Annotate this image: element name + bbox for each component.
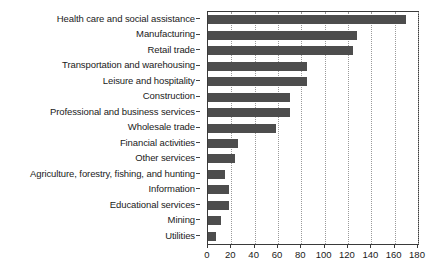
- category-tick-mark: [196, 173, 200, 174]
- category-tick-mark: [196, 49, 200, 50]
- value-tick-label: 100: [316, 249, 332, 260]
- category-label: Wholesale trade: [128, 122, 195, 132]
- category-label: Financial activities: [120, 138, 195, 148]
- category-label: Health care and social assistance: [57, 14, 195, 24]
- value-tick-mark: [417, 244, 418, 248]
- category-tick-mark: [196, 80, 200, 81]
- category-label: Transportation and warehousing: [62, 60, 195, 70]
- category-axis: Health care and social assistanceManufac…: [0, 11, 200, 243]
- category-label-row: Financial activities: [0, 135, 200, 150]
- bar-row: [208, 105, 418, 120]
- bar: [208, 185, 229, 194]
- category-label: Leisure and hospitality: [103, 76, 195, 86]
- bar: [208, 232, 216, 241]
- bar-chart: Health care and social assistanceManufac…: [0, 0, 439, 276]
- category-label-row: Construction: [0, 88, 200, 103]
- bar-row: [208, 136, 418, 151]
- category-label-row: Manufacturing: [0, 26, 200, 41]
- value-tick-mark: [324, 244, 325, 248]
- category-tick-mark: [196, 188, 200, 189]
- bar-row: [208, 43, 418, 58]
- category-tick-mark: [196, 111, 200, 112]
- bar-row: [208, 151, 418, 166]
- value-tick-mark: [277, 244, 278, 248]
- bar: [208, 154, 235, 163]
- value-tick-label: 0: [204, 249, 209, 260]
- category-label: Other services: [135, 153, 195, 163]
- bar: [208, 46, 353, 55]
- category-label-row: Other services: [0, 150, 200, 165]
- category-label: Manufacturing: [136, 29, 195, 39]
- category-label-row: Educational services: [0, 197, 200, 212]
- bar: [208, 31, 357, 40]
- bar-series: [208, 12, 418, 244]
- bar-row: [208, 27, 418, 42]
- category-tick-mark: [196, 127, 200, 128]
- category-tick-mark: [196, 157, 200, 158]
- bar-row: [208, 213, 418, 228]
- category-label: Information: [149, 184, 195, 194]
- bar: [208, 93, 290, 102]
- bar-row: [208, 167, 418, 182]
- value-tick-mark: [207, 244, 208, 248]
- value-tick-mark: [254, 244, 255, 248]
- category-label: Educational services: [110, 200, 195, 210]
- bar-row: [208, 89, 418, 104]
- value-tick-label: 140: [362, 249, 378, 260]
- value-tick-label: 160: [386, 249, 402, 260]
- bar-row: [208, 182, 418, 197]
- bar: [208, 108, 290, 117]
- category-label-row: Utilities: [0, 228, 200, 243]
- value-tick-label: 180: [409, 249, 425, 260]
- category-tick-mark: [196, 65, 200, 66]
- category-label-row: Retail trade: [0, 42, 200, 57]
- category-tick-mark: [196, 34, 200, 35]
- bar: [208, 170, 225, 179]
- value-tick-mark: [370, 244, 371, 248]
- value-tick-mark: [347, 244, 348, 248]
- category-label-row: Transportation and warehousing: [0, 57, 200, 72]
- category-tick-mark: [196, 142, 200, 143]
- value-tick-mark: [394, 244, 395, 248]
- category-tick-mark: [196, 235, 200, 236]
- category-label: Professional and business services: [50, 107, 195, 117]
- category-label-row: Mining: [0, 212, 200, 227]
- bar-row: [208, 12, 418, 27]
- category-label: Utilities: [165, 231, 195, 241]
- bar-row: [208, 198, 418, 213]
- bar-row: [208, 229, 418, 244]
- category-tick-mark: [196, 18, 200, 19]
- value-axis: 020406080100120140160180: [207, 244, 417, 268]
- category-label-row: Agriculture, forestry, fishing, and hunt…: [0, 166, 200, 181]
- bar: [208, 124, 276, 133]
- category-label: Construction: [143, 91, 195, 101]
- category-tick-mark: [196, 96, 200, 97]
- category-label-row: Health care and social assistance: [0, 11, 200, 26]
- bar: [208, 201, 229, 210]
- category-label-row: Wholesale trade: [0, 119, 200, 134]
- value-tick-mark: [300, 244, 301, 248]
- category-label: Agriculture, forestry, fishing, and hunt…: [30, 169, 195, 179]
- category-label-row: Professional and business services: [0, 104, 200, 119]
- bar-row: [208, 120, 418, 135]
- value-tick-label: 120: [339, 249, 355, 260]
- bar: [208, 139, 238, 148]
- category-tick-mark: [196, 219, 200, 220]
- value-tick-label: 40: [248, 249, 259, 260]
- category-tick-mark: [196, 204, 200, 205]
- category-label: Mining: [168, 215, 195, 225]
- bar: [208, 15, 406, 24]
- value-tick-mark: [230, 244, 231, 248]
- bar-row: [208, 58, 418, 73]
- bar: [208, 77, 307, 86]
- bar: [208, 62, 307, 71]
- plot-area: [207, 11, 419, 245]
- value-tick-label: 80: [295, 249, 306, 260]
- bar-row: [208, 74, 418, 89]
- gridline: [418, 12, 419, 244]
- category-label-row: Leisure and hospitality: [0, 73, 200, 88]
- category-label: Retail trade: [148, 45, 195, 55]
- bar: [208, 216, 221, 225]
- value-tick-label: 20: [225, 249, 236, 260]
- category-label-row: Information: [0, 181, 200, 196]
